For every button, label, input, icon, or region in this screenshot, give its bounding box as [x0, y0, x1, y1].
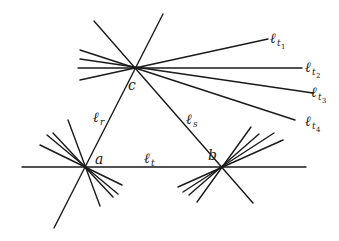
svg-text:t: t	[151, 158, 155, 168]
svg-text:ℓ: ℓ	[144, 150, 150, 166]
label-l-t3: ℓ t 3	[311, 84, 326, 105]
label-l-s: ℓ s	[186, 111, 198, 129]
fan-line-a-1	[40, 145, 122, 185]
point-label-a: a	[95, 151, 103, 167]
point-label-b: b	[208, 147, 217, 163]
svg-text:2: 2	[316, 72, 320, 80]
svg-text:3: 3	[322, 97, 326, 105]
svg-text:1: 1	[281, 43, 285, 51]
svg-text:r: r	[100, 117, 105, 127]
fan-line-b-4	[178, 140, 283, 187]
svg-text:s: s	[193, 119, 198, 129]
label-l-t1: ℓ t 1	[270, 30, 285, 51]
svg-text:ℓ: ℓ	[93, 109, 99, 125]
fan-line-b-3	[183, 133, 274, 192]
svg-text:ℓ: ℓ	[311, 84, 317, 100]
label-l-r: ℓ r	[93, 109, 105, 127]
fan-line-b-2	[189, 134, 259, 195]
label-l-t4: ℓ t 4	[305, 113, 321, 134]
line-arrangement-diagram: c a b ℓ r ℓ s ℓ t ℓ t 1 ℓ t 2 ℓ t 3 ℓ t …	[0, 0, 339, 241]
line-l-r	[54, 14, 163, 228]
fan-line-a-3	[53, 133, 113, 197]
line-l-s	[94, 21, 253, 203]
svg-text:ℓ: ℓ	[305, 113, 311, 129]
label-l-t: ℓ t	[144, 150, 155, 168]
svg-text:ℓ: ℓ	[186, 111, 192, 127]
svg-text:ℓ: ℓ	[305, 59, 311, 75]
svg-text:ℓ: ℓ	[270, 30, 276, 46]
point-label-c: c	[128, 77, 136, 93]
svg-text:4: 4	[316, 126, 321, 134]
label-l-t2: ℓ t 2	[305, 59, 320, 80]
